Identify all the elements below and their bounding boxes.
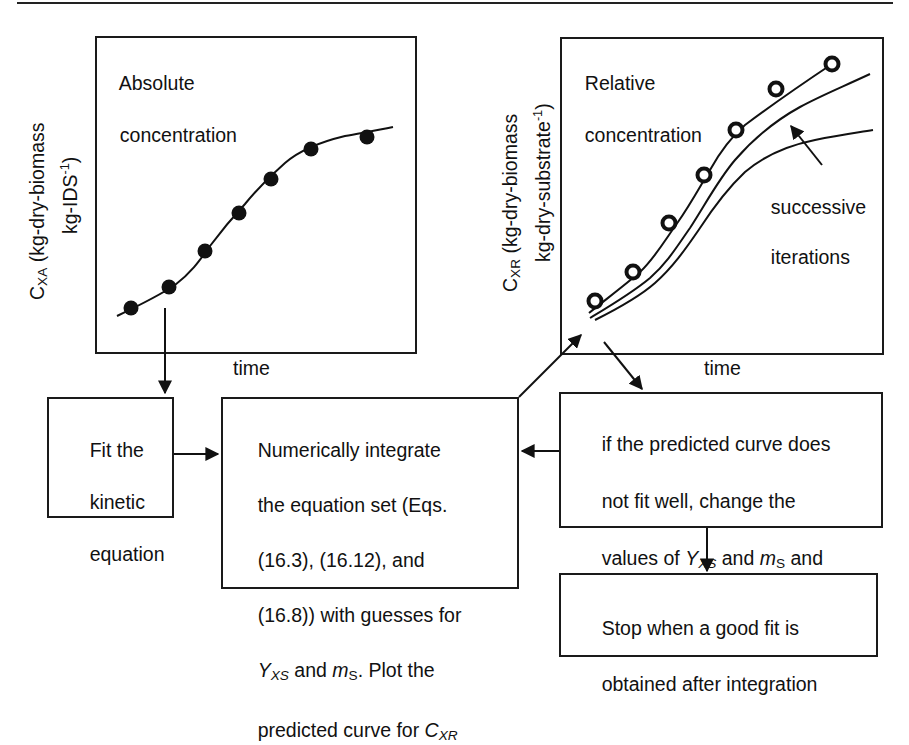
- yield-symbol: Y: [258, 659, 271, 681]
- successive-iterations-label: successive iterations: [760, 170, 866, 270]
- stop-line1: Stop when a good fit is: [602, 617, 799, 639]
- fit-line1: Fit the: [90, 439, 144, 461]
- cxr-symbol: C: [425, 719, 439, 741]
- y-close: ): [532, 103, 554, 110]
- change-line2: not fit well, change the: [602, 490, 796, 512]
- absolute-data-points: [124, 130, 375, 316]
- change-line3-pre: values of: [602, 547, 685, 569]
- change-line3-end: and: [785, 547, 823, 569]
- integrate-line5-end: . Plot the: [358, 659, 435, 681]
- fit-line3: equation: [90, 543, 165, 565]
- y-superscript: -1: [531, 110, 545, 121]
- y-subscript: XR: [508, 259, 523, 278]
- relative-y-axis-label: CXR (kg-dry-biomass kg-dry-substrate-1): [499, 103, 554, 292]
- stop-box-text: Stop when a good fit is obtained after i…: [580, 586, 817, 726]
- stop-box: Stop when a good fit is obtained after i…: [559, 573, 878, 657]
- absolute-title-line1: Absolute: [119, 72, 195, 94]
- integrate-line4: (16.8)) with guesses for: [258, 604, 462, 626]
- y-subscript: XA: [35, 268, 50, 286]
- change-line1: if the predicted curve does: [602, 433, 831, 455]
- fit-line2: kinetic: [90, 491, 145, 513]
- absolute-fit-curve: [117, 127, 393, 316]
- numerically-integrate-box: Numerically integrate the equation set (…: [221, 397, 519, 589]
- absolute-title-line2: concentration: [120, 124, 237, 146]
- maintenance-symbol: m: [760, 547, 776, 569]
- annotation-line1: successive: [771, 196, 866, 218]
- y-symbol: C: [499, 278, 521, 292]
- y-line2: kg-dry-substrate: [532, 121, 554, 262]
- absolute-plot-title: Absolute concentration: [109, 44, 237, 148]
- integrate-box-text: Numerically integrate the equation set (…: [236, 409, 461, 745]
- yield-subscript: XS: [698, 556, 716, 571]
- relative-plot-title: Relative concentration: [574, 44, 702, 148]
- stop-line2: obtained after integration: [602, 673, 818, 695]
- annotation-line2: iterations: [771, 246, 850, 268]
- maintenance-symbol: m: [332, 659, 348, 681]
- integrate-line3: (16.3), (16.12), and: [258, 549, 425, 571]
- yield-symbol: Y: [685, 547, 698, 569]
- y-line1: (kg-dry-biomass: [499, 114, 521, 259]
- y-close: ): [59, 157, 81, 164]
- y-symbol: C: [26, 286, 48, 300]
- integrate-line6: predicted curve for: [258, 719, 425, 741]
- yield-subscript: XS: [271, 668, 289, 683]
- maintenance-subscript: S: [776, 556, 785, 571]
- cxr-subscript: XR: [439, 728, 458, 743]
- relative-x-axis-label: time: [704, 357, 741, 380]
- absolute-y-axis-label: CXA (kg-dry-biomass kg-IDS-1): [26, 123, 81, 301]
- integrate-line2: the equation set (Eqs.: [258, 494, 448, 516]
- relative-title-line2: concentration: [585, 124, 702, 146]
- fit-kinetic-equation-box: Fit the kinetic equation: [47, 397, 174, 518]
- relative-title-line1: Relative: [585, 72, 655, 94]
- integrate-line1: Numerically integrate: [258, 439, 441, 461]
- fit-box-text: Fit the kinetic equation: [68, 411, 165, 593]
- y-line1: (kg-dry-biomass: [26, 123, 48, 268]
- maintenance-subscript: S: [349, 668, 358, 683]
- change-line3-mid: and: [716, 547, 759, 569]
- arrow-integrate-to-relative-plot: [519, 335, 581, 397]
- y-superscript: -1: [58, 163, 72, 174]
- arrow-relative-plot-to-change: [604, 342, 642, 389]
- y-line2: kg-IDS: [59, 174, 81, 234]
- change-parameters-box: if the predicted curve does not fit well…: [559, 392, 883, 528]
- absolute-x-axis-label: time: [233, 357, 270, 380]
- integrate-line5-mid: and: [289, 659, 332, 681]
